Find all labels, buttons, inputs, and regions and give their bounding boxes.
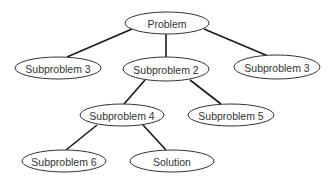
node-label: Subproblem 3 [25, 63, 91, 75]
edge-sub2-to-sub4 [124, 80, 145, 104]
node-label: Subproblem 2 [133, 64, 199, 76]
node-label: Problem [147, 18, 186, 30]
node-solution: Solution [130, 150, 214, 172]
edge-sub2-to-sub5 [190, 80, 221, 104]
node-sub6: Subproblem 6 [22, 150, 106, 172]
edges-group [66, 29, 268, 150]
nodes-group: ProblemSubproblem 3Subproblem 2Subproble… [15, 12, 320, 172]
edge-sub4-to-sub6 [66, 125, 97, 150]
node-sub4: Subproblem 4 [80, 104, 164, 126]
edge-problem-to-sub3-right [204, 29, 268, 56]
edge-problem-to-sub3-left [67, 29, 132, 57]
node-problem: Problem [125, 12, 209, 34]
node-sub5: Subproblem 5 [188, 104, 274, 126]
node-label: Subproblem 5 [198, 110, 264, 122]
node-sub3-left: Subproblem 3 [15, 57, 101, 79]
node-label: Subproblem 3 [244, 62, 310, 74]
node-label: Solution [153, 156, 191, 168]
edge-sub4-to-solution [143, 125, 166, 150]
node-label: Subproblem 4 [89, 110, 155, 122]
node-sub3-right: Subproblem 3 [234, 55, 320, 79]
problem-decomposition-tree: ProblemSubproblem 3Subproblem 2Subproble… [0, 0, 335, 180]
node-label: Subproblem 6 [31, 156, 97, 168]
node-sub2: Subproblem 2 [123, 57, 209, 81]
